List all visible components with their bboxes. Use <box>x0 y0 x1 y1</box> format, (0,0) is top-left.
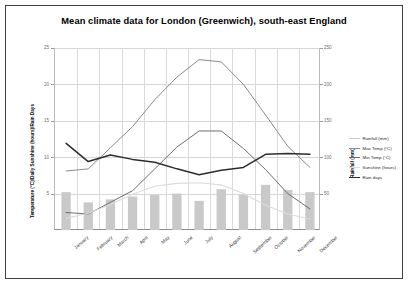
x-axis-tick-label: March <box>117 235 130 248</box>
bar-rainfall <box>172 194 181 230</box>
x-axis-tick-label: July <box>204 235 214 244</box>
legend-swatch <box>349 138 360 139</box>
y-axis-right-tick-mark <box>320 84 323 85</box>
legend-label: Min Temp (°C) <box>363 155 391 160</box>
x-axis-tick-label: September <box>252 235 273 254</box>
legend-swatch <box>349 148 360 149</box>
y-axis-right-tick-mark <box>320 121 323 122</box>
y-axis-right-tick-mark <box>320 157 323 158</box>
bar-rainfall <box>84 202 93 230</box>
chart-legend: Rainfall (mm)Max Temp (°C)Min Temp (°C)S… <box>349 134 409 182</box>
y-axis-right-tick-label: 150 <box>324 118 342 123</box>
chart-frame: Mean climate data for London (Greenwich)… <box>5 5 403 279</box>
legend-swatch <box>349 157 360 158</box>
bar-rainfall <box>150 195 159 230</box>
y-axis-right-tick-mark <box>320 48 323 49</box>
y-axis-right-tick-mark <box>320 194 323 195</box>
x-axis-tick-label: November <box>296 235 316 254</box>
y-axis-right-tick-label: 100 <box>324 155 342 160</box>
y-axis-right-tick-label: 50 <box>324 191 342 196</box>
y-axis-left-tick-mark <box>51 194 54 195</box>
x-axis-tick-label: August <box>228 235 242 249</box>
y-axis-left-tick-mark <box>51 157 54 158</box>
y-axis-left-tick-label: 20 <box>33 82 49 87</box>
y-axis-left-tick-mark <box>51 48 54 49</box>
bar-rainfall <box>239 195 248 230</box>
x-axis-tick-label: December <box>319 235 339 254</box>
y-axis-left-tick-label: 5 <box>33 191 49 196</box>
bar-rainfall <box>128 197 137 230</box>
chart-title: Mean climate data for London (Greenwich)… <box>6 16 402 26</box>
legend-label: Rain days <box>363 175 383 180</box>
legend-item[interactable]: Min Temp (°C) <box>349 153 409 163</box>
legend-label: Rainfall (mm) <box>363 136 389 141</box>
y-axis-left-tick-mark <box>51 121 54 122</box>
line-series <box>66 143 310 174</box>
x-axis-tick-label: June <box>183 235 194 246</box>
legend-swatch <box>349 167 360 168</box>
x-axis-tick-label: January <box>73 235 89 250</box>
legend-item[interactable]: Rain days <box>349 172 409 182</box>
y-axis-right-tick-label: 200 <box>324 82 342 87</box>
chart-series-layer <box>55 48 321 230</box>
bar-rainfall <box>194 201 203 230</box>
legend-item[interactable]: Sunshine (hours) <box>349 163 409 173</box>
y-axis-left-tick-mark <box>51 84 54 85</box>
x-axis-tick-label: May <box>160 235 170 245</box>
bar-rainfall <box>305 192 314 230</box>
bar-rainfall <box>217 189 226 230</box>
x-axis-tick-label: April <box>138 235 148 245</box>
line-series <box>66 183 310 219</box>
legend-label: Sunshine (hours) <box>363 165 396 170</box>
x-axis-tick-label: October <box>273 235 289 250</box>
legend-swatch <box>349 177 360 178</box>
legend-item[interactable]: Max Temp (°C) <box>349 144 409 154</box>
plot-area <box>54 48 320 230</box>
y-axis-left-tick-label: 25 <box>33 45 49 50</box>
y-axis-left-tick-label: 15 <box>33 118 49 123</box>
bar-rainfall <box>261 185 270 230</box>
bar-rainfall <box>61 192 70 230</box>
x-axis-tick-label: February <box>96 235 114 252</box>
legend-label: Max Temp (°C) <box>363 146 392 151</box>
legend-item[interactable]: Rainfall (mm) <box>349 134 409 144</box>
x-axis-month-labels: JanuaryFebruaryMarchAprilMayJuneJulyAugu… <box>54 232 320 284</box>
y-axis-left-tick-label: 10 <box>33 155 49 160</box>
y-axis-right-tick-label: 250 <box>324 45 342 50</box>
